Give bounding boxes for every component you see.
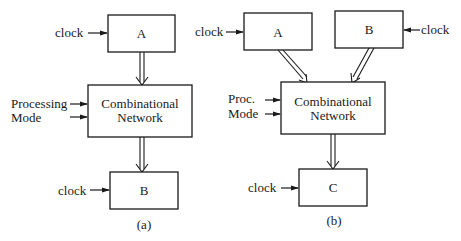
register-transfer-diagram: A clock Combinational Network Processing…	[0, 0, 461, 241]
bus-arrow-icon	[136, 137, 148, 172]
register-b-label: B	[140, 183, 149, 198]
clock-label: clock	[55, 25, 84, 40]
processing-mode-inputs: Proc. Mode	[228, 91, 280, 121]
caption-b: (b)	[326, 213, 341, 228]
bus-arrow-icon	[327, 134, 339, 169]
bus-arrow-icon	[278, 50, 307, 83]
combinational-network-a: Combinational Network	[88, 85, 192, 137]
caption-a: (a)	[137, 217, 151, 232]
clock-label: clock	[248, 180, 277, 195]
combinational-network-b: Combinational Network	[281, 82, 385, 134]
network-label-line1: Combinational	[294, 94, 372, 109]
register-c-bottom: C clock	[248, 169, 367, 206]
diagram-b: A clock B clock Combinational Networ	[195, 11, 450, 228]
bus-arrow-icon	[136, 52, 148, 85]
processing-mode-label-line1: Proc.	[228, 91, 255, 106]
register-a-label: A	[273, 25, 283, 40]
diagram-a: A clock Combinational Network Processing…	[11, 15, 192, 232]
bus-arrow-icon	[351, 48, 374, 83]
processing-mode-label-line1: Processing	[11, 96, 68, 111]
register-a-top: A clock	[55, 15, 175, 52]
register-b-label: B	[365, 22, 374, 37]
register-a-left: A clock	[195, 13, 312, 50]
clock-label: clock	[421, 22, 450, 37]
register-c-label: C	[329, 180, 338, 195]
processing-mode-label-line2: Mode	[11, 110, 42, 125]
register-a-label: A	[137, 26, 147, 41]
register-b-right: B clock	[335, 11, 450, 48]
clock-label: clock	[58, 183, 87, 198]
network-label-line2: Network	[117, 110, 163, 125]
clock-label: clock	[195, 24, 224, 39]
register-b-bottom: B clock	[58, 172, 178, 209]
network-label-line1: Combinational	[101, 96, 179, 111]
processing-mode-label-line2: Mode	[228, 106, 259, 121]
network-label-line2: Network	[310, 108, 356, 123]
processing-mode-inputs: Processing Mode	[11, 96, 87, 125]
